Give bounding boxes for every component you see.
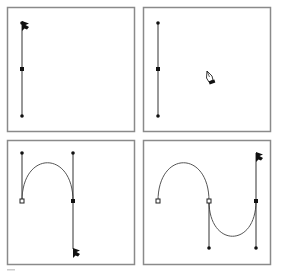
direction-point-top bbox=[71, 151, 75, 155]
anchor-point bbox=[156, 67, 160, 71]
anchor-point bbox=[20, 67, 24, 71]
panel-step-1 bbox=[8, 8, 135, 132]
direction-point bbox=[207, 246, 211, 250]
anchor-point-filled bbox=[254, 199, 258, 203]
direction-point-top bbox=[156, 21, 160, 25]
anchor-point-hollow bbox=[207, 199, 211, 203]
direction-point bbox=[20, 151, 24, 155]
direction-point-bottom bbox=[254, 246, 258, 250]
panel-step-4 bbox=[144, 141, 271, 265]
anchor-point-hollow bbox=[20, 199, 24, 203]
anchor-point-filled bbox=[71, 199, 75, 203]
pen-tool-diagram bbox=[0, 0, 281, 274]
direction-point-bottom bbox=[156, 114, 160, 118]
anchor-point-hollow bbox=[156, 199, 160, 203]
panel-step-3 bbox=[8, 141, 135, 265]
panel-frame bbox=[144, 8, 271, 132]
caption-mark bbox=[7, 269, 15, 271]
direction-point-bottom bbox=[20, 114, 24, 118]
panel-step-2 bbox=[144, 8, 271, 132]
